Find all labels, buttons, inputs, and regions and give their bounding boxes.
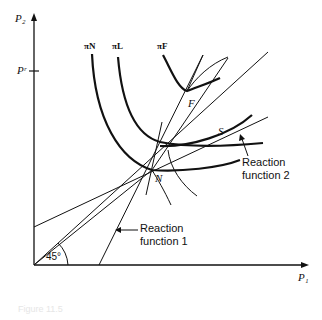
y-axis-label: P₂	[15, 12, 26, 24]
reaction-2-arrow-icon	[239, 134, 245, 141]
pi-l-label: πL	[112, 40, 123, 52]
y-axis-arrow-icon	[31, 13, 37, 21]
reaction-2-pointer	[242, 139, 248, 156]
pi-n-label: πN	[84, 40, 95, 52]
point-s-label: S	[218, 125, 224, 137]
reaction-function-2-label: Reaction function 2	[242, 156, 290, 182]
reaction-2-line1: Reaction	[242, 156, 290, 169]
point-f-label: F	[188, 97, 195, 109]
pi-n-curve	[92, 54, 240, 171]
reaction-1-arrow-icon	[115, 227, 121, 233]
angle-label: 45°	[46, 251, 61, 263]
figure-caption: Figure 11.5	[18, 304, 63, 314]
pi-f-label: πF	[157, 40, 167, 52]
y-tick-label: Pʳ	[17, 64, 26, 76]
reaction-2-line2: function 2	[242, 169, 290, 182]
point-n-label: N	[155, 172, 162, 184]
x-axis-arrow-icon	[301, 262, 309, 268]
reaction-1-line2: function 1	[140, 235, 188, 248]
x-axis-label: P₁	[298, 271, 309, 283]
reaction-function-1-label: Reaction function 1	[140, 222, 188, 248]
reaction-1-line1: Reaction	[140, 222, 188, 235]
